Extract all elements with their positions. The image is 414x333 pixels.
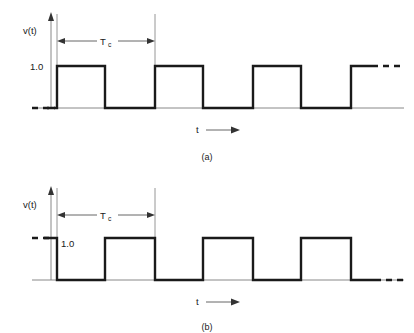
amplitude-label-b: 1.0 <box>61 238 74 249</box>
x-axis-label-a: t <box>196 124 199 135</box>
period-subscript-a: c <box>108 41 112 48</box>
waveform-panel-a: v(t) T c 1.0 t (a) <box>0 0 414 166</box>
period-arrowhead-left-a <box>57 38 65 44</box>
y-axis-label-a: v(t) <box>23 25 37 36</box>
waveform-svg-b: v(t) T c 1.0 t (b) <box>0 166 414 333</box>
period-subscript-b: c <box>108 215 112 222</box>
voltage-axis-arrowhead-b <box>48 186 54 195</box>
period-arrowhead-left-b <box>57 212 65 218</box>
x-axis-label-b: t <box>196 296 199 307</box>
x-axis-arrowhead-a <box>231 127 240 134</box>
period-arrowhead-right-b <box>147 212 155 218</box>
amplitude-label-a: 1.0 <box>30 61 43 72</box>
period-arrowhead-right-a <box>147 38 155 44</box>
panel-caption-a: (a) <box>202 152 213 162</box>
y-axis-label-b: v(t) <box>23 199 37 210</box>
square-wave-path-b <box>44 238 375 280</box>
square-wave-path-a <box>47 66 372 108</box>
panel-caption-b: (b) <box>202 322 213 332</box>
period-label-b: T <box>100 210 106 221</box>
x-axis-arrowhead-b <box>231 299 240 306</box>
waveform-svg-a: v(t) T c 1.0 t (a) <box>0 0 414 166</box>
voltage-axis-arrowhead-a <box>48 12 54 21</box>
period-label-a: T <box>100 36 106 47</box>
waveform-panel-b: v(t) T c 1.0 t (b) <box>0 166 414 332</box>
